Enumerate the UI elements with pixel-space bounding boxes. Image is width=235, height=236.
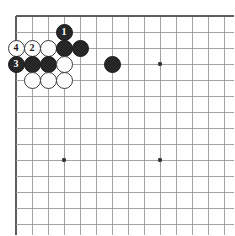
stone-move-number: 2 <box>30 43 35 53</box>
stone-white-move-4[interactable]: 4 <box>8 40 25 57</box>
stone-white-move-2[interactable]: 2 <box>24 40 41 57</box>
stone-white[interactable] <box>40 40 57 57</box>
star-point <box>158 62 162 66</box>
stone-white[interactable] <box>56 72 73 89</box>
stone-black-move-3[interactable]: 3 <box>8 56 25 73</box>
go-board-diagram: 1423 <box>0 0 235 236</box>
stone-white[interactable] <box>40 72 57 89</box>
stone-move-number: 1 <box>62 27 67 37</box>
stone-black[interactable] <box>24 56 41 73</box>
stone-black[interactable] <box>104 56 121 73</box>
stone-move-number: 3 <box>14 59 19 69</box>
stone-white[interactable] <box>56 56 73 73</box>
stone-black[interactable] <box>40 56 57 73</box>
go-board-grid[interactable] <box>0 0 235 236</box>
star-point <box>158 158 162 162</box>
stone-black-move-1[interactable]: 1 <box>56 24 73 41</box>
stone-white[interactable] <box>24 72 41 89</box>
stone-move-number: 4 <box>14 43 19 53</box>
stone-black[interactable] <box>72 40 89 57</box>
star-point <box>62 158 66 162</box>
stone-black[interactable] <box>56 40 73 57</box>
